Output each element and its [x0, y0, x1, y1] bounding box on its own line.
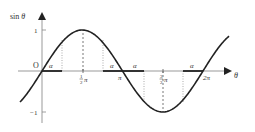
svg-text:π: π: [164, 76, 168, 84]
svg-text:π: π: [84, 76, 88, 84]
x-axis-label: θ: [234, 71, 238, 80]
y-tick-label-1: 1: [34, 27, 38, 35]
svg-text:2: 2: [80, 80, 83, 85]
alpha-label-q2: α: [110, 62, 114, 70]
alpha-label-q1: α: [49, 62, 53, 70]
x-tick-label-2pi: 2π: [203, 74, 211, 82]
alpha-label-q4: α: [190, 62, 194, 70]
svg-text:1: 1: [80, 74, 83, 79]
alpha-label-q3: α: [133, 62, 137, 70]
svg-text:2: 2: [160, 80, 163, 85]
svg-text:3: 3: [160, 74, 163, 79]
origin-label: O: [33, 61, 39, 70]
y-tick-label-neg1: −1: [30, 109, 38, 117]
x-tick-label-pi: π: [118, 74, 122, 82]
y-axis-label: sin θ: [10, 12, 25, 21]
sine-diagram: sin θ θ O 1 −1 1 2 π π 3 2 π 2π α α α α: [0, 0, 255, 132]
x-tick-label-half-pi: 1 2 π: [80, 74, 89, 85]
x-tick-label-three-half-pi: 3 2 π: [160, 74, 169, 85]
